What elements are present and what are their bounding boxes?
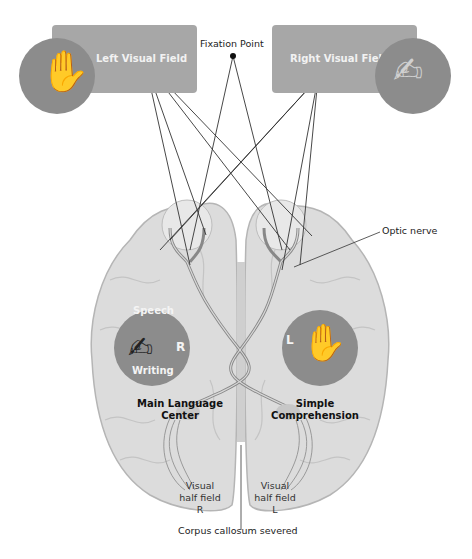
circle-letter-r: R [176, 340, 185, 354]
visual-half-field-l-label: Visual half field L [245, 480, 305, 516]
left-visual-field-label: Left Visual Field [96, 53, 187, 64]
simple-comprehension-label: Simple Comprehension [255, 398, 375, 422]
writing-hand-icon: ✍ [128, 330, 153, 365]
writing-hand-icon: ✍ [393, 50, 423, 91]
fixation-point-dot [230, 53, 236, 59]
right-visual-field-label: Right Visual Field [290, 53, 389, 64]
optic-nerve-label: Optic nerve [382, 225, 437, 236]
writing-label: Writing [132, 365, 174, 376]
open-hand-icon: ✋ [302, 322, 347, 364]
corpus-callosum-label: Corpus callosum severed [178, 525, 298, 536]
speech-label: Speech [133, 305, 174, 316]
open-hand-icon: ✋ [40, 48, 90, 95]
circle-letter-l: L [286, 333, 294, 347]
fixation-point-label: Fixation Point [200, 38, 264, 49]
main-language-center-label: Main Language Center [120, 398, 240, 422]
visual-half-field-r-label: Visual half field R [170, 480, 230, 516]
